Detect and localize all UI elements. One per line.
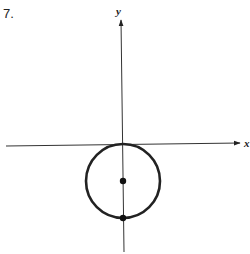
center-point [120, 178, 126, 184]
y-axis-label: y [114, 5, 121, 17]
x-axis-label: x [243, 137, 250, 149]
bottom-point [120, 215, 126, 221]
coordinate-plot: x y [0, 0, 250, 254]
